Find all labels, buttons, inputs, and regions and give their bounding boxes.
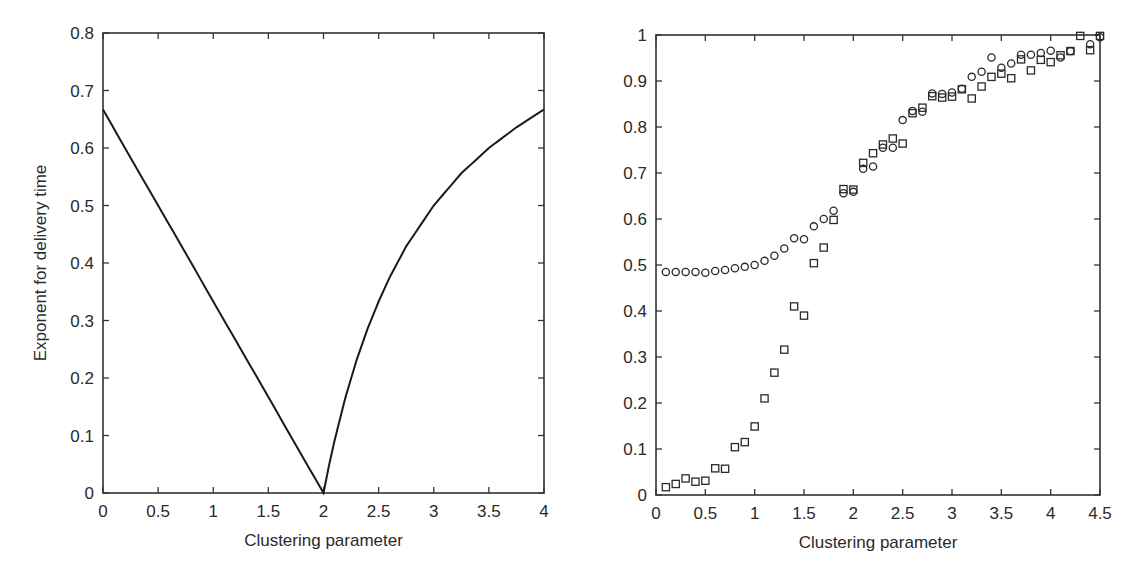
circle-marker [1027, 51, 1034, 58]
x-tick-label: 0 [651, 504, 660, 523]
circle-marker [771, 252, 778, 259]
square-marker [1027, 67, 1034, 74]
circle-marker [682, 268, 689, 275]
x-tick-label: 1.5 [257, 502, 281, 521]
circle-marker [741, 263, 748, 270]
square-marker [721, 465, 728, 472]
square-marker [741, 439, 748, 446]
line-series-exponent [103, 109, 544, 493]
y-tick-label: 0.4 [623, 302, 647, 321]
square-marker [889, 135, 896, 142]
x-tick-label: 1.5 [792, 504, 816, 523]
circle-marker [889, 144, 896, 151]
x-tick-label: 0.5 [146, 502, 170, 521]
square-marker [869, 150, 876, 157]
x-tick-label: 2.5 [891, 504, 915, 523]
circle-marker [899, 117, 906, 124]
circle-marker [909, 107, 916, 114]
left-chart-delivery-exponent: 00.511.522.533.5400.10.20.30.40.50.60.70… [31, 24, 549, 550]
circle-marker [978, 68, 985, 75]
y-tick-label: 1 [638, 26, 647, 45]
x-tick-label: 0 [98, 502, 107, 521]
circle-marker [791, 235, 798, 242]
x-tick-label: 4 [539, 502, 548, 521]
square-marker [1047, 59, 1054, 66]
x-tick-label: 3 [947, 504, 956, 523]
circle-marker [968, 73, 975, 80]
y-tick-label: 0 [638, 486, 647, 505]
square-marker [820, 244, 827, 251]
circle-marker [830, 207, 837, 214]
square-marker [771, 369, 778, 376]
square-marker [712, 465, 719, 472]
y-tick-label: 0.1 [70, 427, 94, 446]
x-tick-label: 4 [1046, 504, 1055, 523]
square-marker [751, 423, 758, 430]
y-tick-label: 0.6 [623, 210, 647, 229]
circle-marker [672, 268, 679, 275]
circle-marker [781, 245, 788, 252]
circle-marker [1067, 48, 1074, 55]
circle-marker [692, 268, 699, 275]
circle-marker [1008, 60, 1015, 67]
x-tick-label: 2 [319, 502, 328, 521]
square-marker [978, 83, 985, 90]
circle-marker [702, 269, 709, 276]
circle-marker [1037, 49, 1044, 56]
square-marker [682, 475, 689, 482]
y-tick-label: 0.8 [70, 24, 94, 43]
y-tick-label: 0 [85, 484, 94, 503]
y-tick-label: 0.6 [70, 139, 94, 158]
y-tick-label: 0.8 [623, 118, 647, 137]
square-marker [692, 478, 699, 485]
circle-marker [751, 261, 758, 268]
y-tick-label: 0.5 [70, 197, 94, 216]
x-tick-label: 2.5 [367, 502, 391, 521]
y-tick-label: 0.1 [623, 440, 647, 459]
y-tick-label: 0.5 [623, 256, 647, 275]
circle-marker [929, 90, 936, 97]
circle-marker [850, 188, 857, 195]
square-marker [968, 95, 975, 102]
circle-marker [721, 266, 728, 273]
circle-marker [731, 265, 738, 272]
square-marker [781, 346, 788, 353]
circle-marker [1057, 54, 1064, 61]
x-tick-label: 0.5 [694, 504, 718, 523]
circle-marker [662, 268, 669, 275]
square-marker [830, 216, 837, 223]
square-marker [1008, 75, 1015, 82]
x-tick-label: 1 [750, 504, 759, 523]
square-marker [988, 73, 995, 80]
x-tick-label: 3.5 [477, 502, 501, 521]
square-marker [899, 140, 906, 147]
square-marker [761, 395, 768, 402]
x-axis-label: Clustering parameter [244, 531, 403, 550]
y-tick-label: 0.9 [623, 72, 647, 91]
circle-marker [1047, 47, 1054, 54]
square-marker [702, 477, 709, 484]
y-tick-label: 0.3 [70, 312, 94, 331]
square-marker [1077, 32, 1084, 39]
square-marker [662, 484, 669, 491]
y-tick-label: 0.7 [623, 164, 647, 183]
square-marker [800, 312, 807, 319]
x-tick-label: 4.5 [1088, 504, 1112, 523]
square-marker [1037, 56, 1044, 63]
y-tick-label: 0.3 [623, 348, 647, 367]
x-axis-label: Clustering parameter [799, 533, 958, 552]
plot-frame [103, 33, 544, 493]
square-marker [791, 303, 798, 310]
circle-marker [820, 215, 827, 222]
figure: 00.511.522.533.5400.10.20.30.40.50.60.70… [0, 0, 1144, 575]
x-tick-label: 2 [849, 504, 858, 523]
y-tick-label: 0.2 [70, 369, 94, 388]
circle-marker [810, 223, 817, 230]
circle-marker [761, 257, 768, 264]
plot-frame [656, 35, 1100, 495]
square-marker [672, 480, 679, 487]
x-tick-label: 3.5 [990, 504, 1014, 523]
x-tick-label: 1 [209, 502, 218, 521]
y-tick-label: 0.2 [623, 394, 647, 413]
circle-marker [800, 236, 807, 243]
